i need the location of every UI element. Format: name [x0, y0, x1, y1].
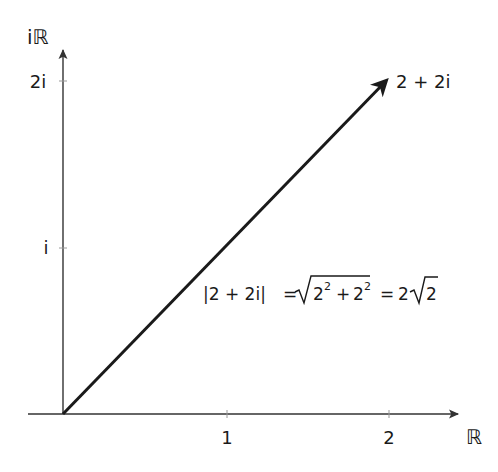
x-axis-label: ℝ — [466, 425, 482, 449]
y-tick-label-2i: 2i — [30, 71, 46, 92]
result-root: 2 — [426, 284, 437, 304]
complex-plane-diagram: iℝ ℝ 1 2 i 2i 2 + 2i |2 + 2i| = 2 2 + 2 … — [0, 0, 498, 472]
modulus-equation: |2 + 2i| = 2 2 + 2 2 = 2 2 — [203, 276, 438, 304]
sqrt-plus: + — [336, 284, 350, 304]
equation-equals-2: = — [380, 284, 394, 304]
y-axis-label: iℝ — [27, 25, 49, 49]
sqrt-term-b-exp: 2 — [364, 280, 371, 293]
sqrt-term-a-exp: 2 — [324, 280, 331, 293]
vector-label: 2 + 2i — [396, 71, 450, 92]
result-coefficient: 2 — [398, 284, 409, 304]
equation-equals-1: = — [283, 284, 297, 304]
equation-lhs: |2 + 2i| — [203, 284, 266, 304]
sqrt-term-b: 2 — [353, 284, 364, 304]
x-tick-label-2: 2 — [383, 427, 394, 448]
real-axis — [28, 410, 458, 418]
sqrt-term-a: 2 — [313, 284, 324, 304]
vector-2-plus-2i — [63, 82, 385, 414]
y-tick-label-i: i — [43, 237, 48, 258]
imaginary-axis — [59, 50, 67, 414]
x-tick-label-1: 1 — [221, 427, 232, 448]
